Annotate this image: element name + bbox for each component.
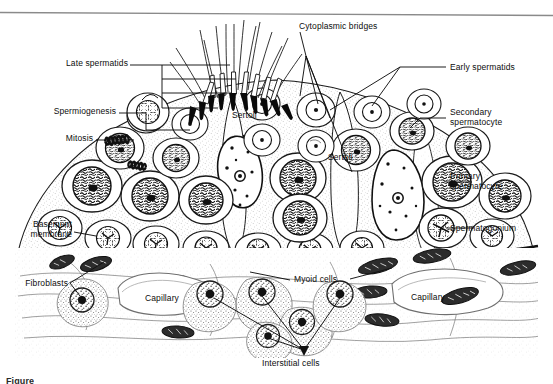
label-late-spermatids: Late spermatids [16,58,128,69]
label-fibroblasts: Fibroblasts [2,278,68,289]
label-basement-membrane-line2: membrane [6,229,72,240]
label-cytoplasmic-bridges: Cytoplasmic bridges [299,21,377,32]
page-top-rule [0,13,553,16]
label-interstitial-cells: Interstitial cells [262,358,320,369]
label-myoid-cells: Myoid cells [294,274,337,285]
interstitial-tissue [14,246,542,362]
label-basement-membrane-line1: Basement [6,219,72,230]
label-sertoli-left: Sertoli [232,110,257,121]
spermiogenesis-cell [127,93,169,131]
label-primary-spermatocyte-line2: spermatocyte [450,181,502,192]
figure-canvas: Late spermatids Spermiogenesis Mitosis B… [0,0,553,384]
label-secondary-spermatocyte-line2: spermatocyte [450,117,502,128]
label-sertoli-right: Sertoli [328,152,353,163]
label-spermiogenesis: Spermiogenesis [16,106,116,117]
label-capillary-left: Capillary [145,293,179,304]
label-secondary-spermatocyte-line1: Secondary [450,107,492,118]
label-primary-spermatocyte-line1: Primary [450,171,480,182]
label-spermatogonium: Spermatogonium [450,223,516,234]
figure-caption: Figure [6,376,34,384]
early-spermatid-cell [297,93,335,127]
label-capillary-right: Capillary [411,292,445,303]
label-mitosis: Mitosis [16,133,93,144]
label-early-spermatids: Early spermatids [450,62,515,73]
capillary-right [392,269,503,315]
